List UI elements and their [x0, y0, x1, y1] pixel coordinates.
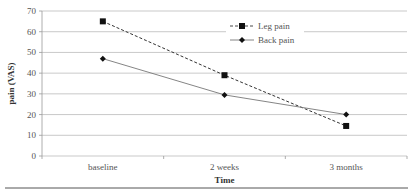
legend: Leg painBack pain: [226, 18, 304, 45]
y-tick-label: 10: [27, 130, 37, 140]
diamond-marker-icon: [343, 112, 349, 118]
y-tick-label: 20: [27, 110, 37, 120]
y-tick-label: 70: [27, 6, 37, 16]
y-axis-title: pain (VAS): [6, 62, 16, 104]
y-tick-label: 40: [27, 68, 37, 78]
y-tick-label: 60: [27, 27, 37, 37]
diamond-marker-icon: [100, 56, 106, 62]
y-tick-label: 50: [27, 47, 37, 57]
y-tick-label: 0: [32, 151, 37, 161]
x-category-label: 2 weeks: [210, 162, 240, 172]
square-marker-icon: [343, 123, 349, 129]
series-back-pain: [100, 56, 349, 118]
series-leg-pain: [100, 18, 349, 129]
x-category-label: 3 months: [330, 162, 364, 172]
y-tick-label: 30: [27, 89, 37, 99]
line-chart: 010203040506070baseline2 weeks3 monthsTi…: [0, 0, 410, 191]
diamond-marker-icon: [222, 92, 228, 98]
square-marker-icon: [100, 18, 106, 24]
legend-label: Back pain: [258, 35, 295, 45]
series-line: [103, 59, 346, 115]
square-marker-icon: [239, 23, 245, 29]
x-axis-title: Time: [215, 175, 235, 185]
legend-label: Leg pain: [258, 21, 290, 31]
x-category-label: baseline: [88, 162, 118, 172]
square-marker-icon: [222, 72, 228, 78]
